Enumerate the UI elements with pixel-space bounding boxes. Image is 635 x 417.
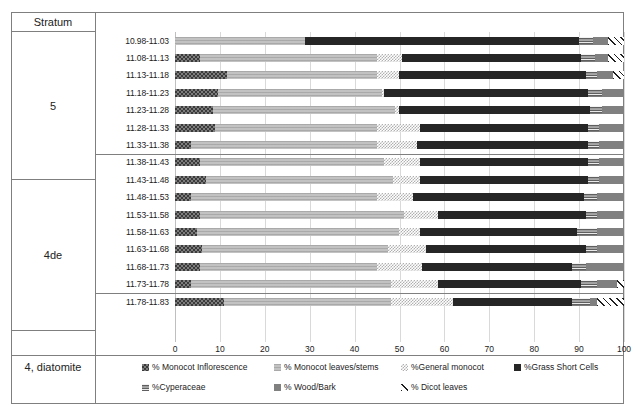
legend-row-1: % Monocot Inflorescence% Monocot leaves/… xyxy=(11,362,624,379)
bar-segment-inflorescence xyxy=(175,263,200,271)
row-label: 11.08-11.13 xyxy=(96,53,175,63)
stacked-bar[interactable] xyxy=(175,71,624,79)
chart-row: 11.58-11.63 xyxy=(96,223,624,240)
legend-label: %Grass Short Cells xyxy=(524,362,598,372)
row-label: 11.13-11.18 xyxy=(96,70,175,80)
bar-segment-wood_bark xyxy=(602,106,624,114)
bar-segment-cyperaceae xyxy=(588,124,599,132)
row-label: 10.98-11.03 xyxy=(96,36,175,46)
chart-row: 11.13-11.18 xyxy=(96,67,624,84)
stacked-bar[interactable] xyxy=(175,176,624,184)
legend-label: % Dicot leaves xyxy=(411,382,467,392)
bar-track xyxy=(175,84,624,101)
stacked-bar[interactable] xyxy=(175,141,624,149)
bar-segment-grass_short_cells xyxy=(305,37,579,45)
bar-segment-leaves_stems xyxy=(191,193,377,201)
bar-segment-leaves_stems xyxy=(200,158,384,166)
bar-segment-cyperaceae xyxy=(577,228,597,236)
bar-track xyxy=(175,293,624,310)
bar-segment-wood_bark xyxy=(586,263,624,271)
chart-row: 11.53-11.58 xyxy=(96,206,624,223)
x-tick-30: 30 xyxy=(305,344,314,354)
bar-segment-cyperaceae xyxy=(584,193,597,201)
bar-track xyxy=(175,136,624,153)
chart-row: 11.68-11.73 xyxy=(96,258,624,275)
legend-row-2: %Cyperaceae% Wood/Bark% Dicot leaves xyxy=(11,382,624,399)
row-label: 11.18-11.23 xyxy=(96,88,175,98)
chart-row: 11.73-11.78 xyxy=(96,275,624,292)
bar-segment-inflorescence xyxy=(175,106,213,114)
stacked-bar[interactable] xyxy=(175,298,624,306)
bar-segment-inflorescence xyxy=(175,280,191,288)
bar-segment-dicot_leaves xyxy=(613,71,624,79)
bar-segment-dicot_leaves xyxy=(617,280,624,288)
stacked-bar[interactable] xyxy=(175,245,624,253)
stacked-bar[interactable] xyxy=(175,263,624,271)
stacked-bar[interactable] xyxy=(175,124,624,132)
group-divider-1 xyxy=(96,154,624,155)
bar-segment-wood_bark xyxy=(597,280,617,288)
legend-item-leaves_stems[interactable]: % Monocot leaves/stems xyxy=(274,362,378,372)
bar-segment-grass_short_cells xyxy=(426,245,585,253)
bar-track xyxy=(175,241,624,258)
legend-item-cyperaceae[interactable]: %Cyperaceae xyxy=(142,382,205,392)
legend-item-general_monocot[interactable]: %General monocot xyxy=(401,362,484,372)
legend-label: % Monocot Inflorescence xyxy=(152,362,247,372)
chart-row: 11.78-11.83 xyxy=(96,293,624,310)
bar-track xyxy=(175,154,624,171)
bar-segment-cyperaceae xyxy=(590,106,601,114)
bar-segment-grass_short_cells xyxy=(399,106,590,114)
bar-track xyxy=(175,67,624,84)
bar-track xyxy=(175,275,624,292)
bar-segment-leaves_stems xyxy=(191,280,391,288)
bar-segment-cyperaceae xyxy=(581,280,597,288)
bar-segment-inflorescence xyxy=(175,158,200,166)
bar-segment-general_monocot xyxy=(388,245,426,253)
legend-label: %General monocot xyxy=(411,362,484,372)
bar-segment-wood_bark xyxy=(597,193,624,201)
stacked-bar[interactable] xyxy=(175,211,624,219)
bar-segment-wood_bark xyxy=(599,124,624,132)
bar-segment-cyperaceae xyxy=(588,158,599,166)
stacked-bar[interactable] xyxy=(175,54,624,62)
legend-swatch-general_monocot xyxy=(401,364,408,371)
bar-segment-general_monocot xyxy=(377,193,413,201)
bar-segment-wood_bark xyxy=(597,245,624,253)
bar-segment-cyperaceae xyxy=(588,176,599,184)
chart-row: 11.63-11.68 xyxy=(96,241,624,258)
bar-segment-inflorescence xyxy=(175,89,218,97)
stacked-bar[interactable] xyxy=(175,193,624,201)
bar-segment-leaves_stems xyxy=(175,37,305,45)
stacked-bar[interactable] xyxy=(175,106,624,114)
bar-segment-leaves_stems xyxy=(215,124,377,132)
legend-item-grass_short_cells[interactable]: %Grass Short Cells xyxy=(514,362,598,372)
bar-segment-general_monocot xyxy=(377,141,417,149)
gridline-100 xyxy=(624,32,625,342)
row-label: 11.53-11.58 xyxy=(96,210,175,220)
stacked-bar[interactable] xyxy=(175,158,624,166)
legend-item-wood_bark[interactable]: % Wood/Bark xyxy=(274,382,336,392)
bar-segment-grass_short_cells xyxy=(438,211,586,219)
bar-track xyxy=(175,171,624,188)
stacked-bar[interactable] xyxy=(175,280,624,288)
x-tick-40: 40 xyxy=(350,344,359,354)
bar-track xyxy=(175,189,624,206)
stacked-bar[interactable] xyxy=(175,89,624,97)
legend-item-inflorescence[interactable]: % Monocot Inflorescence xyxy=(142,362,247,372)
x-tick-50: 50 xyxy=(395,344,404,354)
bar-segment-general_monocot xyxy=(377,124,420,132)
bar-segment-wood_bark xyxy=(590,298,597,306)
row-label: 11.68-11.73 xyxy=(96,262,175,272)
stacked-bar[interactable] xyxy=(175,37,624,45)
bar-segment-grass_short_cells xyxy=(399,71,585,79)
bar-segment-wood_bark xyxy=(593,37,609,45)
bar-segment-inflorescence xyxy=(175,54,200,62)
chart-row: 11.08-11.13 xyxy=(96,49,624,66)
bar-segment-general_monocot xyxy=(393,176,420,184)
legend-item-dicot_leaves[interactable]: % Dicot leaves xyxy=(401,382,467,392)
bar-track xyxy=(175,223,624,240)
bar-segment-general_monocot xyxy=(384,158,420,166)
stacked-bar[interactable] xyxy=(175,228,624,236)
legend-swatch-dicot_leaves xyxy=(401,384,408,391)
bar-segment-cyperaceae xyxy=(572,298,590,306)
